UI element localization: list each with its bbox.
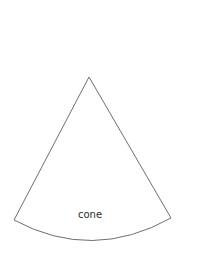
cone-label: cone [78, 209, 102, 220]
cone-net-diagram: cone [0, 0, 201, 255]
